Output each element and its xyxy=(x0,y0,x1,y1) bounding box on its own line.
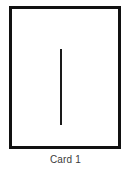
card-figure: Card 1 xyxy=(0,0,131,177)
vertical-line-stimulus xyxy=(60,49,62,125)
card-face xyxy=(12,9,118,146)
card-caption: Card 1 xyxy=(0,154,131,166)
card-frame xyxy=(9,6,121,149)
